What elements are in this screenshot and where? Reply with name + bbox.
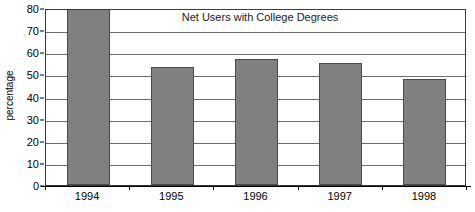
bar-chart: percentage 01020304050607080 Net Users w… xyxy=(0,0,475,212)
plot-area xyxy=(45,9,466,186)
chart-title: Net Users with College Degrees xyxy=(130,11,390,23)
bar xyxy=(319,63,362,185)
y-axis-tick-mark xyxy=(40,9,44,10)
y-axis-tick-label: 50 xyxy=(27,69,39,81)
bar xyxy=(67,9,110,185)
y-axis-tick-label: 10 xyxy=(27,158,39,170)
y-axis-tick-mark xyxy=(40,97,44,98)
bar xyxy=(235,59,278,185)
y-axis-tick-label: 80 xyxy=(27,3,39,15)
y-axis-tick-mark xyxy=(40,163,44,164)
x-axis-tick-labels: 19941995199619971998 xyxy=(45,190,466,212)
bar xyxy=(403,79,446,185)
y-axis-title-label: percentage xyxy=(4,70,15,120)
x-axis-tick-label: 1994 xyxy=(75,190,99,202)
x-axis-tick-label: 1995 xyxy=(159,190,183,202)
y-axis-tick-label: 20 xyxy=(27,136,39,148)
y-axis-title: percentage xyxy=(0,0,18,190)
bar xyxy=(151,67,194,185)
y-axis-tick-label: 60 xyxy=(27,47,39,59)
y-axis-tick-label: 40 xyxy=(27,92,39,104)
x-axis-line xyxy=(41,186,471,187)
y-axis-tick-mark xyxy=(40,53,44,54)
y-axis-tick-mark xyxy=(40,141,44,142)
y-axis-tick-label: 70 xyxy=(27,25,39,37)
y-axis-tick-mark xyxy=(40,119,44,120)
x-axis-tick-label: 1996 xyxy=(243,190,267,202)
y-axis-tick-label: 30 xyxy=(27,114,39,126)
bars-layer xyxy=(46,10,465,185)
x-axis-tick-label: 1997 xyxy=(327,190,351,202)
y-axis-tick-label: 0 xyxy=(33,180,39,192)
x-axis-tick-mark xyxy=(466,186,467,190)
y-axis-tick-mark xyxy=(40,31,44,32)
y-axis-tick-labels: 01020304050607080 xyxy=(18,0,44,192)
y-axis-tick-mark xyxy=(40,75,44,76)
x-axis-tick-label: 1998 xyxy=(412,190,436,202)
